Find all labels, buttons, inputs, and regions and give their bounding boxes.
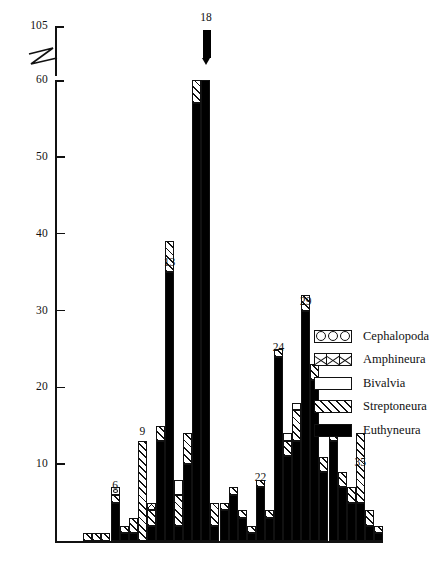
- bar-segment-euthyneura: [283, 456, 292, 541]
- bar-segment-streptoneura: [174, 495, 183, 526]
- histogram-bar: [183, 433, 192, 541]
- histogram-bar: [129, 518, 138, 541]
- histogram-bar: [292, 403, 301, 541]
- legend-label: Cephalopoda: [363, 330, 429, 343]
- bar-segment-streptoneura: [120, 526, 129, 534]
- peak-label-6: 6: [112, 480, 118, 492]
- bar-segment-streptoneura: [92, 533, 101, 541]
- histogram-bar: [192, 80, 201, 541]
- bar-segment-streptoneura: [283, 441, 292, 456]
- peak-label-35: 35: [355, 457, 367, 469]
- bar-segment-streptoneura: [338, 472, 347, 487]
- bar-segment-streptoneura: [129, 518, 138, 533]
- histogram-bar: [138, 441, 147, 541]
- bar-segment-streptoneura: [229, 487, 238, 495]
- legend-swatch-crosses-icon: [314, 353, 352, 366]
- y-tick-label-10: 10: [14, 458, 48, 470]
- bar-segment-euthyneura: [265, 518, 274, 541]
- bar-segment-euthyneura: [120, 533, 129, 541]
- legend-swatch-hatch-icon: [314, 400, 352, 413]
- histogram-bar: [374, 526, 383, 541]
- bar-segment-streptoneura: [374, 526, 383, 534]
- histogram-bar: [210, 503, 219, 541]
- bar-segment-euthyneura: [192, 103, 201, 541]
- y-tick-label-60: 60: [14, 74, 48, 86]
- legend-item-amphineura[interactable]: Amphineura: [314, 350, 436, 370]
- bar-segment-euthyneura: [374, 533, 383, 541]
- y-tick-label-40: 40: [14, 228, 48, 240]
- legend-label: Euthyneura: [363, 424, 421, 437]
- plot-area: [56, 80, 383, 541]
- histogram-bar: [92, 533, 101, 541]
- bar-segment-euthyneura: [210, 526, 219, 541]
- histogram-bar: [174, 480, 183, 541]
- bar-segment-euthyneura: [111, 503, 120, 541]
- bar-segment-streptoneura: [319, 457, 328, 472]
- bar-segment-streptoneura: [347, 487, 356, 502]
- bar-segment-streptoneura: [247, 526, 256, 534]
- bar-segment-euthyneura: [229, 495, 238, 541]
- bar-segment-euthyneura: [356, 503, 365, 541]
- bar-segment-euthyneura: [274, 357, 283, 541]
- bar-segment-euthyneura: [156, 441, 165, 541]
- legend-label: Bivalvia: [363, 377, 405, 390]
- bar-segment-streptoneura: [147, 510, 156, 525]
- mollusc-taxa-histogram-figure: 102030405060105 69131822242935 Cephalopo…: [0, 0, 440, 565]
- bar-segment-streptoneura: [156, 426, 165, 441]
- peak-label-9: 9: [139, 426, 145, 438]
- histogram-bar: [347, 487, 356, 541]
- bar-segment-streptoneura: [111, 495, 120, 503]
- bar-segment-euthyneura: [338, 487, 347, 541]
- histogram-bar: [274, 349, 283, 541]
- legend-item-cephalopoda[interactable]: Cephalopoda: [314, 326, 436, 346]
- bar-segment-bivalvia: [283, 433, 292, 441]
- x-axis-baseline: [55, 541, 383, 543]
- histogram-bar: [201, 80, 210, 541]
- bar-segment-euthyneura: [220, 510, 229, 541]
- legend: CephalopodaAmphineuraBivalviaStreptoneur…: [314, 326, 436, 444]
- legend-item-streptoneura[interactable]: Streptoneura: [314, 397, 436, 417]
- bar-segment-bivalvia: [174, 480, 183, 495]
- bar-segment-euthyneura: [238, 518, 247, 541]
- peak-label-24: 24: [273, 342, 285, 354]
- y-tick-label-50: 50: [14, 151, 48, 163]
- axis-break-zigzag-icon: [27, 36, 61, 78]
- legend-label: Streptoneura: [363, 400, 427, 413]
- histogram-bar: [319, 456, 328, 541]
- bar-segment-streptoneura: [138, 441, 147, 541]
- bar-segment-streptoneura: [192, 80, 201, 103]
- bar-segment-streptoneura: [365, 510, 374, 525]
- bar-segment-streptoneura: [183, 433, 192, 464]
- histogram-bar: [238, 510, 247, 541]
- bar-segment-euthyneura: [165, 272, 174, 541]
- histogram-bar: [256, 480, 265, 541]
- bar-segment-euthyneura: [365, 526, 374, 541]
- bar-segment-euthyneura: [347, 503, 356, 541]
- histogram-bar: [120, 526, 129, 541]
- bar-segment-amphineura: [147, 503, 156, 511]
- bar-segment-streptoneura: [292, 410, 301, 441]
- histogram-bar: [83, 533, 92, 541]
- bar-segment-euthyneura: [292, 441, 301, 541]
- histogram-bar: [356, 433, 365, 541]
- histogram-bar: [147, 503, 156, 541]
- bar-segment-euthyneura: [183, 464, 192, 541]
- overflow-bar-stub: [203, 30, 211, 58]
- legend-item-euthyneura[interactable]: Euthyneura: [314, 420, 436, 440]
- histogram-bar: [265, 510, 274, 541]
- histogram-bar: [101, 533, 110, 541]
- bar-segment-streptoneura: [265, 510, 274, 518]
- legend-swatch-solid-icon: [314, 424, 352, 437]
- bar-segment-streptoneura: [101, 533, 110, 541]
- histogram-bar: [247, 526, 256, 541]
- histogram-bar: [156, 426, 165, 541]
- histogram-bar: [165, 241, 174, 541]
- peak-label-22: 22: [255, 472, 267, 484]
- bar-segment-euthyneura: [201, 80, 210, 541]
- bar-segment-euthyneura: [129, 533, 138, 541]
- histogram-bar: [283, 433, 292, 541]
- peak-label-13: 13: [164, 257, 176, 269]
- bar-segment-streptoneura: [83, 533, 92, 541]
- y-tick-label-20: 20: [14, 381, 48, 393]
- legend-item-bivalvia[interactable]: Bivalvia: [314, 373, 436, 393]
